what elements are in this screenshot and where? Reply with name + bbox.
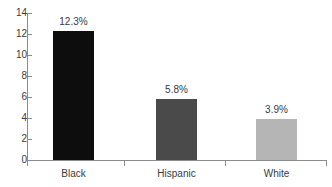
x-category-label-white: White [251, 168, 302, 179]
x-category-label-black: Black [48, 168, 99, 179]
y-tick-label-2: 2 [5, 134, 27, 144]
y-tick-mark-14 [28, 13, 32, 14]
bar-black [53, 31, 94, 160]
y-tick-label-4: 4 [5, 113, 27, 123]
y-tick-mark-10 [28, 55, 32, 56]
bar-value-label-white: 3.9% [251, 105, 302, 115]
y-tick-label-14: 14 [5, 8, 27, 18]
y-tick-mark-4 [28, 118, 32, 119]
x-tick-mark-end [326, 161, 327, 166]
bar-white [256, 119, 297, 160]
x-category-label-hispanic: Hispanic [146, 168, 207, 179]
bar-value-label-black: 12.3% [48, 17, 99, 27]
y-tick-mark-6 [28, 97, 32, 98]
bar-value-label-hispanic: 5.8% [151, 85, 202, 95]
x-tick-mark-start [27, 161, 28, 166]
x-tick-mark-1 [124, 161, 125, 166]
y-tick-mark-8 [28, 76, 32, 77]
y-tick-label-10: 10 [5, 50, 27, 60]
x-axis-line [27, 160, 327, 161]
x-tick-mark-2 [225, 161, 226, 166]
y-tick-label-6: 6 [5, 92, 27, 102]
y-tick-mark-2 [28, 139, 32, 140]
y-tick-mark-12 [28, 34, 32, 35]
bar-chart: 14 12 10 8 6 4 2 0 12.3% Black 5.8% Hisp… [0, 0, 332, 187]
y-tick-label-12: 12 [5, 29, 27, 39]
y-tick-label-0: 0 [5, 155, 27, 165]
bar-hispanic [156, 99, 197, 160]
y-tick-label-8: 8 [5, 71, 27, 81]
